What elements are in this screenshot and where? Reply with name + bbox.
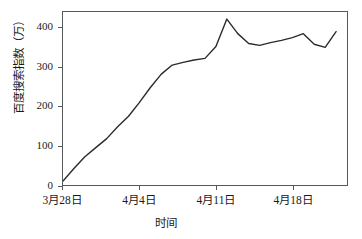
data-series-line xyxy=(63,12,347,185)
x-tick-label: 4月11日 xyxy=(197,194,236,206)
y-tick-label: 0 xyxy=(48,180,54,191)
x-tick-mark xyxy=(62,186,63,190)
x-axis-title-text: 时间 xyxy=(155,217,177,229)
y-tick-label: 300 xyxy=(37,61,54,72)
plot-area xyxy=(62,11,348,186)
x-tick-mark xyxy=(293,186,294,190)
baidu-search-index-line-chart: 百度搜索指数（万） 0100200300400 3月28日4月4日4月11日4月… xyxy=(0,0,362,239)
x-tick-mark xyxy=(139,186,140,190)
x-axis-title: 时间 xyxy=(0,214,362,230)
x-tick-mark xyxy=(216,186,217,190)
y-tick-label: 100 xyxy=(37,140,54,151)
y-axis-title: 百度搜索指数（万） xyxy=(10,0,26,134)
y-tick-label: 200 xyxy=(37,100,54,111)
x-tick-label: 4月4日 xyxy=(122,194,156,206)
y-tick-label: 400 xyxy=(37,21,54,32)
x-tick-label: 3月28日 xyxy=(42,194,81,206)
x-tick-label: 4月18日 xyxy=(273,194,312,206)
